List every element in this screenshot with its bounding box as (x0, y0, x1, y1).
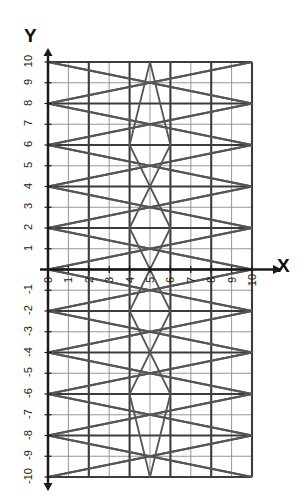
y-tick-label: 10 (22, 47, 34, 75)
x-tick-label: 0 (42, 268, 54, 292)
x-tick-label: 10 (246, 268, 258, 292)
coordinate-plane (0, 0, 304, 502)
x-axis-title: X (277, 256, 290, 275)
x-tick-label: 2 (83, 268, 95, 292)
y-axis-title: Y (24, 26, 37, 45)
x-tick-label: 1 (62, 268, 74, 292)
x-tick-label: 7 (185, 268, 197, 292)
x-tick-label: 3 (103, 268, 115, 292)
x-tick-label: 6 (164, 268, 176, 292)
x-tick-label: 8 (205, 268, 217, 292)
y-tick-label: -1 (22, 275, 34, 303)
x-tick-label: 9 (226, 268, 238, 292)
x-tick-label: 4 (124, 268, 136, 292)
x-tick-label: 5 (144, 268, 156, 292)
plot-canvas: Y X -10-9-8-7-6-5-4-3-2-112345678910 012… (0, 0, 304, 502)
